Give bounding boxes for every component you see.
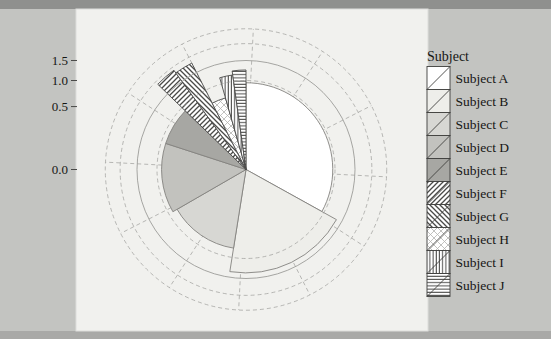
legend-label: Subject C xyxy=(456,117,509,132)
legend-label: Subject A xyxy=(456,71,509,86)
bottom-band xyxy=(0,331,551,339)
axis-tick-label: 0.0 xyxy=(52,162,68,177)
axis-tick-label: 1.0 xyxy=(52,73,68,88)
polar-pie-chart: 1.51.00.50.0 Subject Subject ASubject BS… xyxy=(0,0,551,339)
legend-label: Subject J xyxy=(456,278,505,293)
legend-label: Subject B xyxy=(456,94,509,109)
legend-label: Subject D xyxy=(456,140,510,155)
top-band xyxy=(0,0,551,9)
legend-label: Subject G xyxy=(456,209,510,224)
legend-title: Subject xyxy=(427,49,469,64)
axis-tick-label: 0.5 xyxy=(52,99,68,114)
legend-label: Subject I xyxy=(456,255,505,270)
axis-tick-label: 1.5 xyxy=(52,53,68,68)
legend-label: Subject F xyxy=(456,186,508,201)
legend-label: Subject E xyxy=(456,163,508,178)
legend-label: Subject H xyxy=(456,232,510,247)
figure: 1.51.00.50.0 Subject Subject ASubject BS… xyxy=(0,0,551,339)
